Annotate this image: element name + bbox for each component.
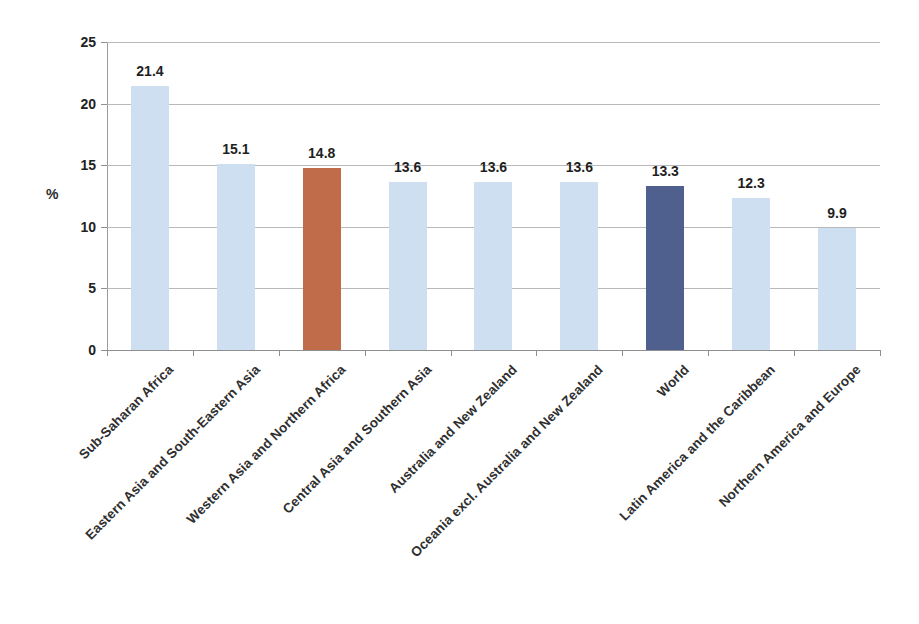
bar-value-label: 13.3 [652,163,679,179]
x-axis-ticks [107,350,880,356]
bar[interactable] [217,164,255,350]
bar-group: 13.3 [622,42,708,350]
bar-value-label: 13.6 [394,159,421,175]
bar-group: 13.6 [536,42,622,350]
x-tick [622,350,623,356]
bar[interactable] [560,182,598,350]
x-axis-category-label: Eastern Asia and South-Eastern Asia [82,362,263,543]
x-axis-category-label: Central Asia and Southern Asia [280,362,435,517]
plot-area: 21.415.114.813.613.613.613.312.39.9 [107,42,880,350]
bar-value-label: 21.4 [136,63,163,79]
x-axis-category-label: Western Asia and Northern Africa [184,362,349,527]
x-tick [536,350,537,356]
bar-value-label: 13.6 [566,159,593,175]
bar-group: 9.9 [794,42,880,350]
bar[interactable] [389,182,427,350]
bar-value-label: 9.9 [827,205,846,221]
x-tick [708,350,709,356]
x-tick [193,350,194,356]
bar[interactable] [131,86,169,350]
bar-group: 13.6 [451,42,537,350]
bar-value-label: 14.8 [308,145,335,161]
y-axis-tick-label: 5 [50,281,96,295]
bar[interactable] [818,228,856,350]
bar-group: 21.4 [107,42,193,350]
bar-value-label: 12.3 [738,175,765,191]
bar-group: 12.3 [708,42,794,350]
x-tick [880,350,881,356]
bar-group: 14.8 [279,42,365,350]
y-axis-tick-label: 15 [50,158,96,172]
bar[interactable] [474,182,512,350]
bar[interactable] [732,198,770,350]
bar-chart: % 0510152025 21.415.114.813.613.613.613.… [0,0,919,624]
x-axis-category-label: Oceania excl. Australia and New Zealand [408,362,606,560]
x-tick [279,350,280,356]
x-tick [107,350,108,356]
y-axis-tick-label: 20 [50,97,96,111]
bar-group: 13.6 [365,42,451,350]
y-axis-label: % [46,186,58,202]
bar-value-label: 13.6 [480,159,507,175]
y-axis-tick-label: 0 [50,343,96,357]
y-axis-tick-label: 25 [50,35,96,49]
bar[interactable] [646,186,684,350]
bar[interactable] [303,168,341,350]
y-axis-tick-label: 10 [50,220,96,234]
x-axis-category-label: Sub-Saharan Africa [76,362,176,462]
x-tick [794,350,795,356]
bar-group: 15.1 [193,42,279,350]
x-axis-category-label: Northern America and Europe [716,362,864,510]
x-axis-category-label: World [654,362,692,400]
x-tick [451,350,452,356]
x-tick [365,350,366,356]
bar-value-label: 15.1 [222,141,249,157]
x-axis-category-label: Latin America and the Caribbean [616,362,778,524]
